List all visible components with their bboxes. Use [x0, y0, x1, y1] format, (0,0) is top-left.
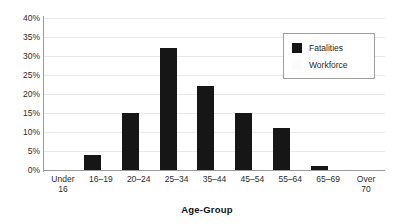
y-axis-tick-label: 15%	[6, 109, 40, 118]
legend-label-fatalities: Fatalities	[309, 43, 343, 53]
x-axis-tick-label: Over 70	[343, 174, 389, 194]
y-axis-tick-label: 30%	[6, 52, 40, 61]
legend-swatch-icon-fatalities	[292, 43, 302, 53]
legend-label-workforce: Workforce	[309, 60, 348, 70]
y-axis-tick-label: 20%	[6, 90, 40, 99]
y-axis-tick-label: 40%	[6, 14, 40, 23]
bar-fatalities	[273, 128, 290, 170]
y-axis-tick-label: 5%	[6, 147, 40, 156]
bar-fatalities	[84, 155, 101, 170]
bar-slot	[120, 18, 158, 170]
bar-slot	[233, 18, 271, 170]
bar-slot	[196, 18, 234, 170]
y-axis-tick-label: 0%	[6, 166, 40, 175]
y-axis-tick-label: 10%	[6, 128, 40, 137]
bar-fatalities	[235, 113, 252, 170]
legend-item-fatalities: Fatalities	[292, 41, 343, 55]
bar-chart: 0%5%10%15%20%25%30%35%40% Under 1616–192…	[0, 0, 414, 224]
bar-fatalities	[122, 113, 139, 170]
chart-legend: Fatalities Workforce	[283, 33, 375, 79]
bar-slot	[82, 18, 120, 170]
bar-fatalities	[160, 48, 177, 170]
y-axis-tick-label: 35%	[6, 33, 40, 42]
bar-fatalities	[197, 86, 214, 170]
legend-swatch-icon-workforce	[292, 60, 302, 70]
bar-slot	[44, 18, 82, 170]
bar-fatalities	[311, 166, 328, 170]
bar-slot	[158, 18, 196, 170]
legend-item-workforce: Workforce	[292, 58, 348, 72]
x-axis-title: Age-Group	[0, 204, 414, 215]
x-axis-line	[43, 170, 385, 171]
y-axis-tick-label: 25%	[6, 71, 40, 80]
